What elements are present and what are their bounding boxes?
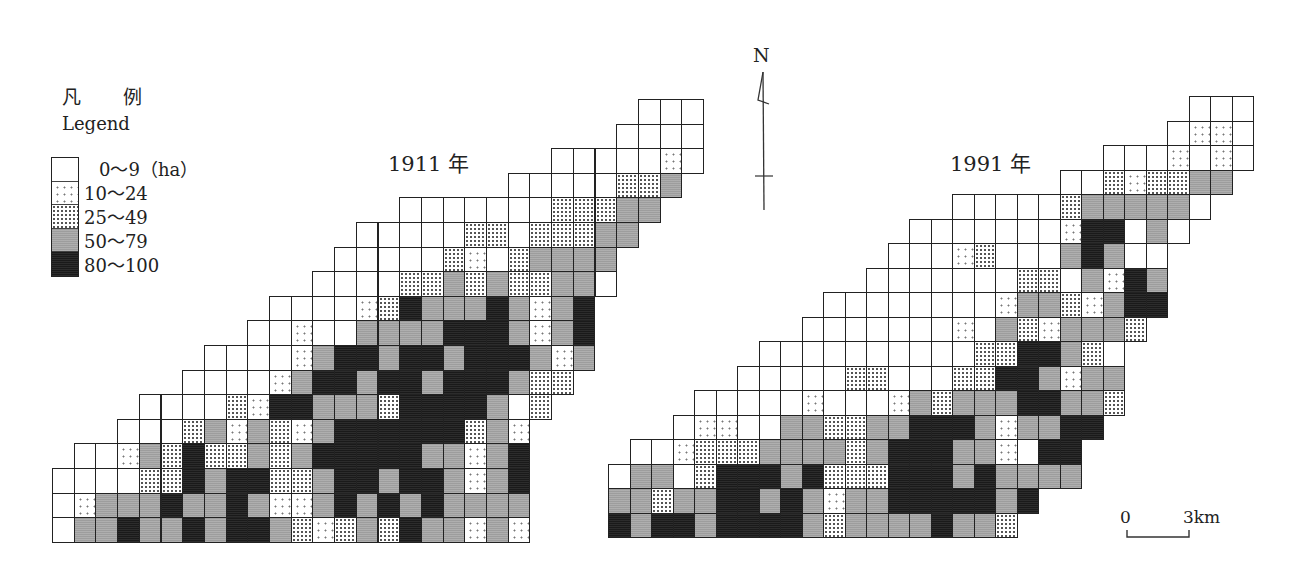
grid-cell — [888, 415, 911, 441]
grid-cell — [651, 513, 674, 539]
grid-cell — [1167, 170, 1190, 196]
grid-cell — [1189, 96, 1212, 122]
grid-cell — [378, 394, 401, 420]
grid-cell — [443, 468, 466, 494]
grid-cell — [334, 419, 357, 445]
grid-cell — [1081, 268, 1104, 294]
grid-cell — [421, 296, 444, 322]
grid-cell — [573, 148, 596, 174]
grid-cell — [909, 341, 932, 367]
grid-cell — [529, 370, 552, 396]
grid-cell — [802, 390, 825, 416]
grid-cell — [952, 341, 975, 367]
grid-cell — [443, 419, 466, 445]
grid-cell — [681, 148, 704, 174]
grid-cell — [443, 296, 466, 322]
grid-cell — [464, 222, 487, 248]
grid-cell — [995, 194, 1018, 220]
grid-cell — [737, 415, 760, 441]
grid-cell — [823, 341, 846, 367]
grid-cell — [759, 439, 782, 465]
grid-cell — [1060, 341, 1083, 367]
grid-cell — [1017, 194, 1040, 220]
grid-cell — [931, 268, 954, 294]
map-title-1991: 1991 年 — [950, 152, 1031, 176]
grid-cell — [161, 443, 184, 469]
grid-cell — [716, 513, 739, 539]
grid-cell — [888, 341, 911, 367]
grid-cell — [845, 292, 868, 318]
grid-cell — [1038, 464, 1061, 490]
grid-cell — [551, 370, 574, 396]
grid-cell — [952, 194, 975, 220]
grid-cell — [651, 464, 674, 490]
grid-cell — [638, 148, 661, 174]
grid-cell — [334, 320, 357, 346]
grid-cell — [995, 513, 1018, 539]
grid-cell — [909, 268, 932, 294]
grid-cell — [486, 468, 509, 494]
grid-cell — [694, 439, 717, 465]
grid-cell — [694, 513, 717, 539]
grid-cell — [952, 464, 975, 490]
grid-cell — [681, 124, 704, 150]
grid-cell — [334, 296, 357, 322]
grid-cell — [486, 419, 509, 445]
grid-cell — [551, 222, 574, 248]
grid-cell — [1167, 219, 1190, 245]
grid-cell — [247, 345, 270, 371]
grid-cell — [573, 173, 596, 199]
grid-cell — [630, 488, 653, 514]
grid-cell — [1081, 292, 1104, 318]
grid-cell — [1038, 415, 1061, 441]
grid-cell — [1017, 439, 1040, 465]
grid-cell — [204, 370, 227, 396]
grid-cell — [802, 366, 825, 392]
grid-cell — [399, 320, 422, 346]
grid-cell — [161, 419, 184, 445]
grid-cell — [399, 468, 422, 494]
grid-cell — [486, 296, 509, 322]
grid-cell — [573, 197, 596, 223]
grid-cell — [694, 415, 717, 441]
grid-cell — [974, 464, 997, 490]
grid-cell — [399, 222, 422, 248]
grid-cell — [95, 517, 118, 543]
grid-cell — [995, 219, 1018, 245]
grid-cell — [1189, 194, 1212, 220]
grid-cell — [312, 468, 335, 494]
grid-cell — [356, 296, 379, 322]
grid-cell — [508, 443, 531, 469]
grid-cell — [1017, 317, 1040, 343]
grid-cell — [737, 464, 760, 490]
grid-cell — [1081, 390, 1104, 416]
grid-cell — [1017, 268, 1040, 294]
grid-cell — [780, 488, 803, 514]
grid-cell — [312, 345, 335, 371]
grid-cell — [356, 394, 379, 420]
grid-cell — [845, 390, 868, 416]
grid-cell — [95, 493, 118, 519]
grid-cell — [802, 464, 825, 490]
grid-cell — [974, 488, 997, 514]
grid-cell — [421, 345, 444, 371]
grid-cell — [529, 345, 552, 371]
grid-cell — [1081, 243, 1104, 269]
grid-cell — [508, 370, 531, 396]
grid-cell — [1038, 219, 1061, 245]
grid-cell — [1038, 317, 1061, 343]
grid-cell — [551, 271, 574, 297]
grid-cell — [694, 390, 717, 416]
grid-cell — [909, 366, 932, 392]
grid-cell — [269, 517, 292, 543]
grid-cell — [995, 317, 1018, 343]
grid-cell — [952, 415, 975, 441]
grid-cell — [378, 271, 401, 297]
grid-cell — [1081, 317, 1104, 343]
grid-cell — [759, 390, 782, 416]
grid-cell — [421, 517, 444, 543]
grid-cell — [508, 468, 531, 494]
grid-cell — [486, 320, 509, 346]
legend-swatch-0-9 — [52, 158, 78, 182]
grid-cell — [1103, 390, 1126, 416]
